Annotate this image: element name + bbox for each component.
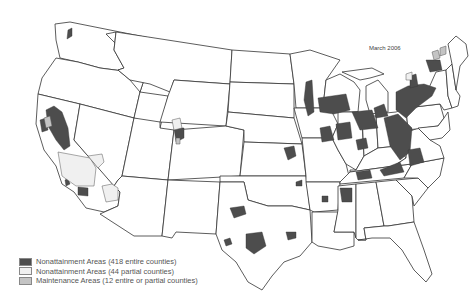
map-date-label: March 2006 [369, 45, 401, 51]
nonattainment-partial-swatch [19, 267, 32, 275]
legend-label: Nonattainment Areas (44 partial counties… [36, 267, 174, 276]
legend-item-nonattainment-entire: Nonattainment Areas (418 entire counties… [19, 257, 198, 267]
legend-label: Maintenance Areas (12 entire or partial … [36, 276, 198, 285]
legend-item-maintenance: Maintenance Areas (12 entire or partial … [19, 276, 198, 286]
legend-item-nonattainment-partial: Nonattainment Areas (44 partial counties… [19, 267, 198, 277]
maintenance-swatch [19, 277, 32, 285]
legend-label: Nonattainment Areas (418 entire counties… [36, 257, 177, 266]
map-legend: Nonattainment Areas (418 entire counties… [19, 257, 198, 286]
nonattainment-entire-swatch [19, 258, 32, 266]
